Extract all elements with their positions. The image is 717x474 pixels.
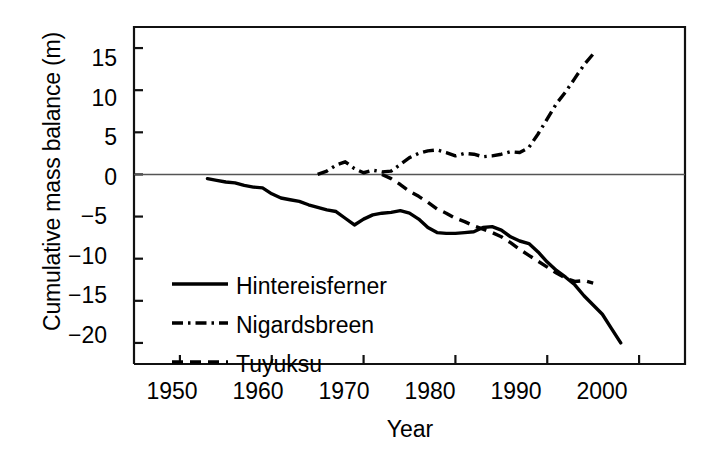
x-tick-label-1970: 1970 [299,378,389,405]
y-tick-label-15: 15 [47,45,117,72]
y-tick-label-neg5: −5 [37,203,107,230]
legend-label-nigardsbreen: Nigardsbreen [236,312,374,339]
y-tick-label-10: 10 [47,85,117,112]
legend-swatches [172,284,228,362]
y-tick-label-5: 5 [47,124,117,151]
y-tick-label-neg10: −10 [37,243,107,270]
legend-label-tuyuksu: Tuyuksu [236,351,322,378]
y-tick-label-neg15: −15 [37,282,107,309]
x-tick-label-1950: 1950 [127,378,217,405]
y-tick-label-neg20: −20 [37,322,107,349]
legend-label-hintereisferner: Hintereisferner [236,273,387,300]
cumulative-mass-balance-chart: Cumulative mass balance (m) 15 10 5 0 −5… [0,0,717,474]
x-tick-label-2000: 2000 [557,378,647,405]
y-tick-label-0: 0 [47,164,117,191]
x-tick-label-1990: 1990 [471,378,561,405]
series-line-nigardsbreen [318,54,593,174]
x-axis-title: Year [130,416,690,443]
x-tick-label-1960: 1960 [213,378,303,405]
x-tick-label-1980: 1980 [385,378,475,405]
